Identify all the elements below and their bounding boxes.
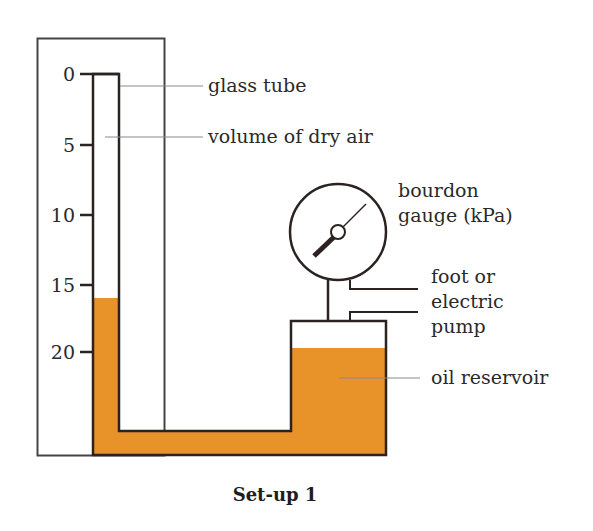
label-pump-2: electric xyxy=(431,290,504,312)
label-glass-tube: glass tube xyxy=(208,74,306,96)
tick-label-0: 0 xyxy=(63,63,75,85)
tick-label-20: 20 xyxy=(51,341,75,363)
pump-pipe-lower xyxy=(350,312,418,321)
label-bourdon-2: gauge (kPa) xyxy=(398,204,513,226)
label-pump-3: pump xyxy=(431,315,486,337)
pump-pipe-upper xyxy=(350,280,418,289)
label-volume-dry-air: volume of dry air xyxy=(207,125,374,147)
label-pump-1: foot or xyxy=(431,265,496,287)
boyles-law-apparatus-diagram: 0 5 10 15 20 glass tube volume of dry ai… xyxy=(0,0,593,531)
figure-caption: Set-up 1 xyxy=(233,484,318,505)
label-bourdon-1: bourdon xyxy=(398,179,479,201)
tick-label-10: 10 xyxy=(51,204,75,226)
oil-in-reservoir xyxy=(291,348,386,455)
label-oil-reservoir: oil reservoir xyxy=(431,366,549,388)
tick-label-5: 5 xyxy=(63,134,75,156)
tick-label-15: 15 xyxy=(51,274,75,296)
gauge-pivot xyxy=(331,225,345,239)
